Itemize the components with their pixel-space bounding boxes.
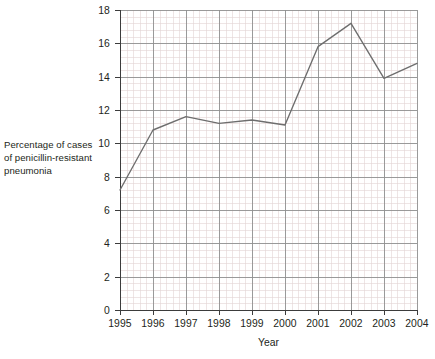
- major-gridlines: [120, 10, 418, 311]
- line-chart-plot: [0, 0, 435, 359]
- y-axis-title-line-3: pneumonia: [4, 164, 108, 177]
- x-axis-title: Year: [120, 337, 417, 348]
- x-axis-title-text: Year: [258, 337, 279, 348]
- data-series-line: [120, 23, 417, 190]
- y-axis-title-line-1: Percentage of cases: [4, 138, 108, 151]
- axis-lines: [121, 10, 418, 311]
- chart-figure: Percentage of cases of penicillin-resist…: [0, 0, 435, 359]
- y-axis-title-line-2: of penicillin-resistant: [4, 151, 108, 164]
- y-axis-title: Percentage of cases of penicillin-resist…: [4, 138, 108, 178]
- cropped-header-text: [236, 0, 426, 5]
- minor-gridlines: [120, 10, 417, 310]
